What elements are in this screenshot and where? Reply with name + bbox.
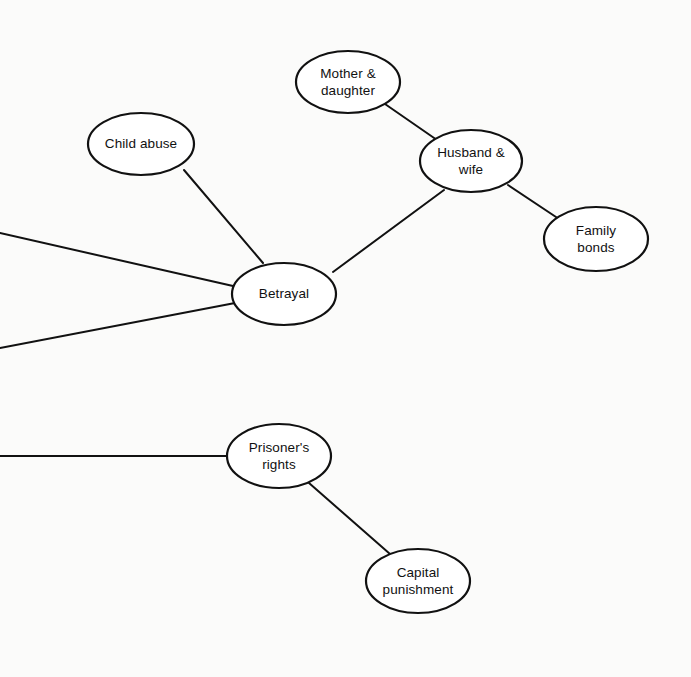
diagram-svg [0,0,691,677]
edge-prisoners-rights-to-capital-punishment [309,483,390,554]
edge-betrayal-to-offscreen-left-lower [0,303,235,348]
edge-child-abuse-to-betrayal [184,170,263,263]
edge-husband-wife-to-family-bonds [508,185,559,219]
node-prisoners-rights[interactable] [227,424,331,488]
edge-betrayal-to-husband-wife [333,190,444,272]
concept-map-canvas: Mother & daughterChild abuseHusband & wi… [0,0,691,677]
edge-betrayal-to-offscreen-left-upper [0,233,233,286]
node-family-bonds[interactable] [544,207,648,271]
node-betrayal[interactable] [232,263,336,325]
edge-mother-daughter-to-husband-wife [385,104,437,140]
node-mother-daughter[interactable] [296,51,400,113]
node-capital-punishment[interactable] [366,549,470,613]
node-child-abuse[interactable] [88,113,194,175]
node-husband-wife[interactable] [420,130,522,192]
nodes-group [88,51,648,613]
